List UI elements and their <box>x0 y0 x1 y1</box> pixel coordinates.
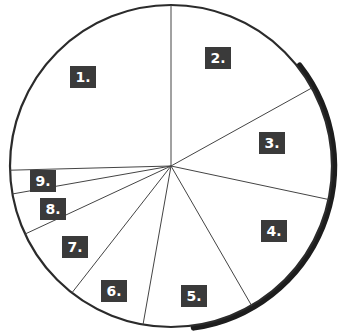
slice-label-3: 3. <box>259 132 285 154</box>
slice-label-9: 9. <box>30 170 56 192</box>
pie-chart-figure: 1. 2. 3. 4. 5. 6. 7. 8. 9. <box>0 0 343 335</box>
pie-chart-svg <box>0 0 343 335</box>
slice-label-6: 6. <box>101 280 127 302</box>
slice-label-8: 8. <box>40 198 66 220</box>
slice-label-7: 7. <box>62 236 88 258</box>
slice-label-2: 2. <box>205 47 231 69</box>
slice-label-4: 4. <box>261 220 287 242</box>
slice-label-1: 1. <box>70 66 96 88</box>
slice-label-5: 5. <box>181 285 207 307</box>
